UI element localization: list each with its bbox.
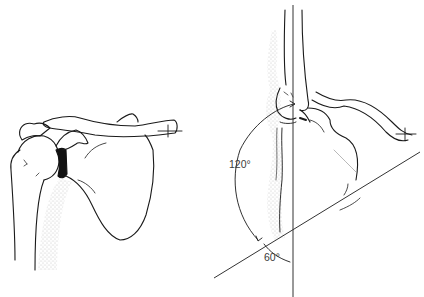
diagram-canvas: 120° 60° bbox=[0, 0, 424, 297]
left-shoulder-anterior-view bbox=[11, 114, 182, 270]
scapular-plane-line bbox=[214, 152, 420, 278]
scapula-superior-angle bbox=[117, 114, 138, 122]
angle-arc-120 bbox=[235, 104, 294, 240]
humerus-shaft-right bbox=[300, 10, 309, 111]
glenoid-joint-space bbox=[56, 149, 67, 178]
scapula-outline bbox=[66, 135, 154, 240]
angle-label-120: 120° bbox=[229, 159, 251, 170]
angle-label-60: 60° bbox=[264, 252, 280, 263]
scapula-lateral-border bbox=[308, 108, 358, 180]
clavicle-cut-mark-right bbox=[396, 128, 416, 140]
humerus-shaft-left bbox=[284, 10, 286, 85]
shoulder-diagram-svg bbox=[0, 0, 424, 297]
humerus-shading bbox=[38, 178, 72, 270]
right-arm-elevation-view bbox=[235, 10, 416, 262]
acromion bbox=[20, 123, 50, 140]
clavicle bbox=[43, 117, 177, 137]
humerus-outline bbox=[11, 150, 20, 260]
